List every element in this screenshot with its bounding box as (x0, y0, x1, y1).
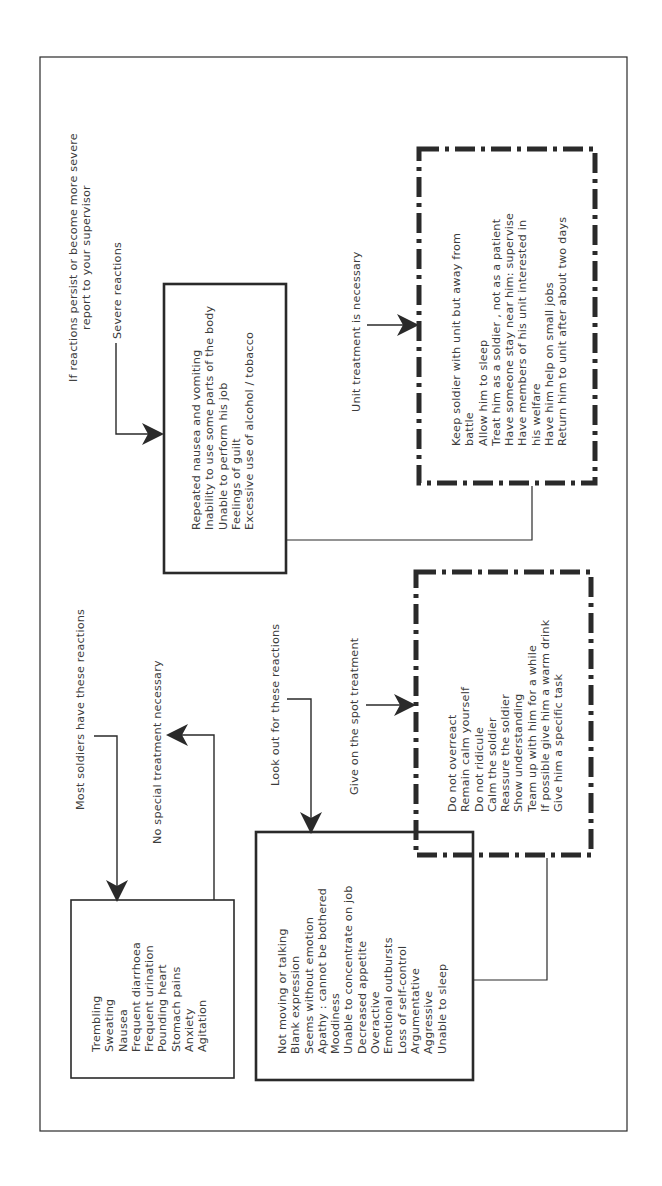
list-item: Excessive use of alcohol / tobacco (243, 306, 256, 530)
list-item: Decreased appetite (356, 885, 369, 1054)
arrow-no-special-treatment (168, 735, 214, 900)
list-item: Overactive (369, 885, 382, 1054)
list-item: Loss of self-control (396, 885, 409, 1054)
list-item: Apathy : cannot be bothered (316, 885, 329, 1054)
list-item: Have him help on small jobs (543, 213, 556, 446)
list-item: Treat him as a soldier , not as a patien… (490, 213, 503, 446)
arrow-to-moderate-box (287, 699, 311, 832)
spot-treatment-label: Give on the spot treatment (348, 638, 361, 795)
list-item: Not moving or talking (276, 885, 289, 1054)
list-item: Blank expression (289, 885, 302, 1054)
list-item: Calm the soldier (486, 620, 499, 812)
spot-treatment-list: Do not overreact Remain calm yourself Do… (446, 620, 566, 812)
list-item: Nausea (117, 942, 130, 1052)
list-item: Do not overreact (446, 620, 459, 812)
moderate-intro-label: Look out for these reactions (269, 624, 282, 786)
list-item: battle (463, 213, 476, 446)
list-item: Inability to use some parts of the body (203, 306, 216, 530)
list-item: Agitation (196, 942, 209, 1052)
list-item: Argumentative (409, 885, 422, 1054)
list-item: Do not ridicule (473, 620, 486, 812)
escalation-note: If reactions persist or become more seve… (67, 95, 93, 420)
connector-spot-to-moderate (473, 858, 547, 980)
list-item: his welfare (530, 213, 543, 446)
list-item: Return him to unit after about two days (556, 213, 569, 446)
list-item: Moodiness (329, 885, 342, 1054)
list-item: Frequent diarrhoea (130, 942, 143, 1052)
list-item: Keep soldier with unit but away from (450, 213, 463, 446)
list-item: Have members of his unit interested in (516, 213, 529, 446)
list-item: Seems without emotion (303, 885, 316, 1054)
escalation-line-1: If reactions persist or become more seve… (67, 95, 80, 420)
list-item: Unable to perform his job (217, 306, 230, 530)
unit-treatment-label: Unit treatment is necessary (350, 251, 363, 412)
arrow-to-severe-box (116, 343, 162, 434)
no-special-treatment-label: No special treatment necessary (151, 660, 164, 844)
arrow-to-mild-box (94, 736, 117, 900)
severe-intro-label: Severe reactions (111, 242, 124, 339)
list-item: Stomach pains (170, 942, 183, 1052)
list-item: Feelings of guilt (230, 306, 243, 530)
list-item: Team up with him for a while (526, 620, 539, 812)
list-item: Show understanding (512, 620, 525, 812)
list-item: Anxiety (183, 942, 196, 1052)
list-item: Trembling (90, 942, 103, 1052)
list-item: Emotional outbursts (382, 885, 395, 1054)
list-item: Give him a specific task (552, 620, 565, 812)
list-item: Allow him to sleep (477, 213, 490, 446)
mild-intro-label: Most soldiers have these reactions (74, 609, 87, 810)
list-item: Pounding heart (156, 942, 169, 1052)
severe-reactions-list: Repeated nausea and vomiting Inability t… (190, 306, 256, 530)
list-item: Remain calm yourself (459, 620, 472, 812)
list-item: Reassure the soldier (499, 620, 512, 812)
list-item: Unable to sleep (436, 885, 449, 1054)
list-item: Unable to concentrate on job (342, 885, 355, 1054)
list-item: Frequent urination (143, 942, 156, 1052)
list-item: Aggressive (422, 885, 435, 1054)
connector-severe-to-unit (286, 486, 532, 540)
list-item: Have someone stay near him: supervise (503, 213, 516, 446)
list-item: If possible give him a warm drink (539, 620, 552, 812)
list-item: Sweating (103, 942, 116, 1052)
moderate-reactions-list: Not moving or talking Blank expression S… (276, 885, 449, 1054)
escalation-line-2: report to your supervisor (80, 95, 93, 420)
list-item: Repeated nausea and vomiting (190, 306, 203, 530)
unit-treatment-list: Keep soldier with unit but away from bat… (450, 213, 570, 446)
mild-reactions-list: Trembling Sweating Nausea Frequent diarr… (90, 942, 210, 1052)
